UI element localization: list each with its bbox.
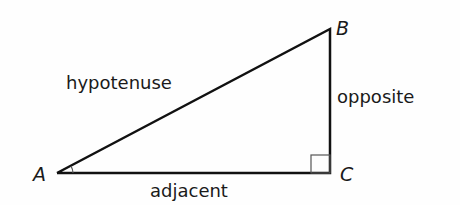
opposite-label: opposite: [337, 88, 414, 106]
vertex-label-c: C: [340, 165, 353, 184]
triangle-outline: [57, 29, 330, 173]
right-angle-marker: [311, 155, 330, 173]
hypotenuse-label: hypotenuse: [66, 74, 172, 92]
adjacent-label: adjacent: [150, 182, 228, 200]
vertex-label-b: B: [336, 19, 349, 38]
triangle-diagram: A B C hypotenuse opposite adjacent: [0, 0, 460, 205]
vertex-label-a: A: [33, 165, 46, 184]
